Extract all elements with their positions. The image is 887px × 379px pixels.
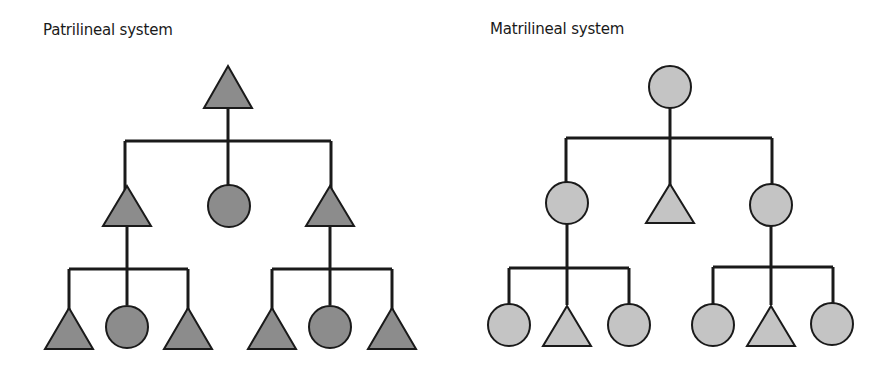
male-triangle-icon	[45, 308, 93, 349]
female-circle-icon	[208, 185, 250, 227]
female-circle-icon	[608, 304, 650, 346]
kinship-diagrams	[0, 0, 887, 379]
male-triangle-icon	[164, 308, 212, 349]
female-circle-icon	[649, 66, 691, 108]
female-circle-icon	[546, 182, 588, 224]
female-circle-icon	[309, 306, 351, 348]
female-circle-icon	[488, 304, 530, 346]
female-circle-icon	[750, 184, 792, 226]
male-triangle-icon	[204, 66, 252, 108]
matrilineal-nodes	[488, 66, 853, 346]
male-triangle-icon	[646, 184, 694, 223]
patrilineal-nodes	[45, 66, 416, 349]
female-circle-icon	[811, 303, 853, 345]
male-triangle-icon	[747, 306, 795, 346]
female-circle-icon	[692, 304, 734, 346]
male-triangle-icon	[103, 186, 151, 226]
female-circle-icon	[106, 306, 148, 348]
male-triangle-icon	[543, 306, 591, 346]
male-triangle-icon	[306, 186, 354, 226]
male-triangle-icon	[248, 308, 296, 349]
male-triangle-icon	[368, 308, 416, 349]
